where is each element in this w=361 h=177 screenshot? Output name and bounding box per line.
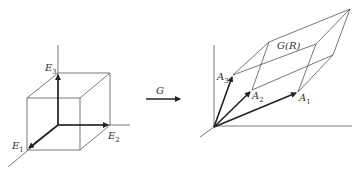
label-a2: A2 <box>251 90 264 104</box>
label-e1: E1 <box>11 140 24 154</box>
label-a3: A3 <box>216 71 229 85</box>
label-map-g: G <box>156 85 164 96</box>
diagram-svg: E3 E2 E1 G <box>0 0 361 177</box>
a2-vector-arrow-icon <box>214 92 250 127</box>
x-axis-right <box>200 127 214 137</box>
label-g-of-r: G(R) <box>277 40 300 51</box>
diagram-canvas: E3 E2 E1 G <box>0 0 361 177</box>
unit-cube <box>27 73 110 150</box>
e1-vector-arrow-icon <box>29 125 58 148</box>
a3-vector-arrow-icon <box>214 77 232 127</box>
label-a1: A1 <box>298 92 311 106</box>
label-e3: E3 <box>44 62 57 76</box>
label-e2: E2 <box>107 130 120 144</box>
left-axes <box>8 45 130 167</box>
